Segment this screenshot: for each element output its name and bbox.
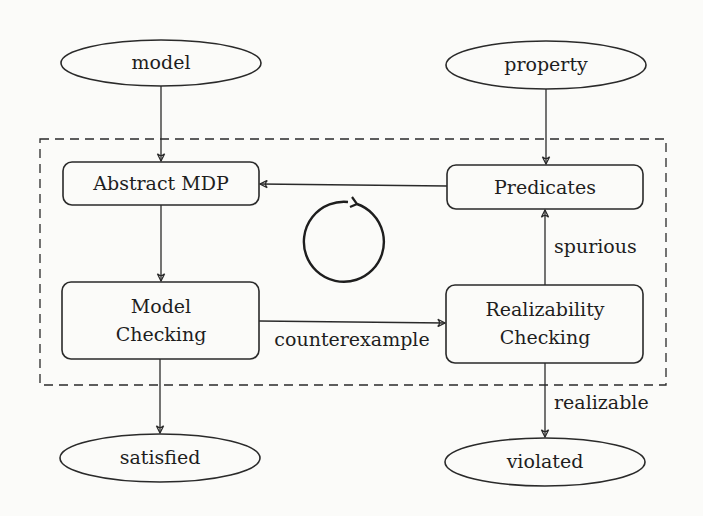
predicates-node[interactable]: Predicates	[447, 165, 643, 209]
violated-node[interactable]: violated	[445, 438, 645, 486]
violated-label: violated	[506, 450, 584, 472]
abstract-mdp-node[interactable]: Abstract MDP	[63, 162, 259, 205]
realizable-edge-label: realizable	[554, 391, 649, 413]
model-checking-label-line2: Checking	[116, 323, 207, 345]
spurious-edge-label: spurious	[554, 235, 637, 257]
model-checking-label-line1: Model	[131, 295, 191, 317]
property-node[interactable]: property	[446, 41, 646, 89]
realizability-checking-label-line2: Checking	[500, 326, 591, 348]
edge-predicates-to-abstract-mdp	[260, 184, 447, 186]
satisfied-node[interactable]: satisfied	[60, 434, 260, 482]
predicates-label: Predicates	[494, 176, 596, 198]
counterclockwise-cycle-arrow-body	[304, 202, 384, 282]
satisfied-label: satisfied	[120, 446, 201, 468]
model-node[interactable]: model	[61, 40, 261, 86]
cegar-flowchart: model property Abstract MDP Predicates M…	[0, 0, 703, 516]
edge-counterexample	[259, 321, 445, 323]
model-label: model	[132, 51, 191, 73]
realizability-checking-node[interactable]: Realizability Checking	[446, 285, 643, 363]
realizability-checking-label-line1: Realizability	[485, 298, 604, 320]
realizability-checking-box	[446, 285, 643, 363]
abstract-mdp-label: Abstract MDP	[92, 172, 229, 194]
property-label: property	[504, 53, 588, 75]
diagram-canvas: model property Abstract MDP Predicates M…	[0, 0, 703, 516]
model-checking-node[interactable]: Model Checking	[62, 282, 259, 359]
counterexample-edge-label: counterexample	[274, 328, 429, 350]
model-checking-box	[62, 282, 259, 359]
counterclockwise-cycle-arrow-icon	[350, 197, 357, 207]
